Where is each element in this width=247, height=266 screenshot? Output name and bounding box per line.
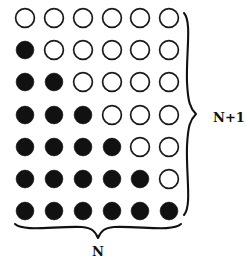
dot-open	[103, 106, 122, 125]
dot-open	[131, 9, 150, 28]
dot-open	[160, 41, 179, 60]
dot-filled	[131, 202, 149, 220]
dot-filled	[45, 73, 63, 91]
dot-row	[16, 106, 178, 125]
triangular-dot-array-figure: N+1 N	[0, 0, 247, 266]
dot-row	[16, 138, 178, 157]
dot-open	[160, 138, 179, 157]
dot-row	[16, 9, 179, 28]
dot-filled	[45, 106, 63, 124]
dot-filled	[16, 73, 34, 91]
dot-row	[16, 202, 178, 220]
dot-filled	[16, 138, 34, 156]
dot-filled	[16, 170, 34, 188]
dot-filled	[160, 202, 178, 220]
bottom-brace-label: N	[92, 244, 104, 259]
dot-filled	[16, 106, 34, 124]
dot-filled	[103, 170, 121, 188]
dot-filled	[74, 170, 92, 188]
dot-open	[74, 73, 93, 92]
dot-open	[103, 9, 122, 28]
bottom-brace	[15, 224, 181, 238]
dot-open	[160, 73, 179, 92]
dot-filled	[74, 202, 92, 220]
dot-row	[16, 41, 178, 60]
dot-filled	[45, 202, 63, 220]
dot-open	[103, 73, 122, 92]
dot-filled	[103, 138, 121, 156]
dot-row	[16, 170, 178, 189]
dot-row	[16, 73, 178, 92]
dot-filled	[16, 41, 34, 59]
dot-open	[103, 41, 122, 60]
dot-filled	[45, 138, 63, 156]
dot-open	[131, 41, 150, 60]
dot-filled	[131, 170, 149, 188]
dot-filled	[16, 202, 34, 220]
right-brace-label: N+1	[213, 110, 245, 125]
dot-open	[16, 9, 35, 28]
dot-open	[74, 41, 93, 60]
right-brace	[184, 13, 196, 215]
dot-filled	[74, 138, 92, 156]
dot-open	[160, 106, 179, 125]
dot-open	[45, 9, 64, 28]
dot-filled	[45, 170, 63, 188]
dot-open	[131, 106, 150, 125]
dot-filled	[103, 202, 121, 220]
diagram-canvas: N+1 N	[0, 0, 247, 266]
dot-filled	[74, 106, 92, 124]
dot-open	[160, 9, 179, 28]
dot-open	[74, 9, 93, 28]
dot-open	[131, 138, 150, 157]
dot-open	[160, 170, 179, 189]
dot-open	[131, 73, 150, 92]
dot-open	[45, 41, 64, 60]
